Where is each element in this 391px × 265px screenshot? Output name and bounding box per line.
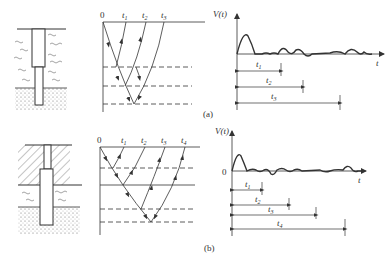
wave-diagram-a [103,22,205,112]
signal-plot-a [237,14,384,110]
time-labels-b: t1 t2 t3 t4 [121,135,187,146]
svg-text:t3: t3 [161,135,167,146]
svg-text:t1: t1 [256,59,262,70]
zero-label-b: 0 [222,167,227,177]
pile-a [14,29,67,110]
x-axis-label-a: t [376,58,379,68]
svg-text:t3: t3 [271,91,277,102]
panel-b: 0 t1 t2 t3 t4 V(t) 0 t t1 t2 t3 [18,126,366,253]
svg-text:t1: t1 [122,10,128,21]
origin-label-a: 0 [100,10,105,20]
panel-a: 0 t1 t2 t3 V(t) t t1 t2 t3 (a) [14,9,384,119]
x-axis-label-b: t [358,175,361,185]
svg-text:t1: t1 [121,135,127,146]
wave-diagram-b [100,147,200,235]
svg-text:t2: t2 [142,10,148,21]
figure-canvas: 0 t1 t2 t3 V(t) t t1 t2 t3 (a) [0,0,391,265]
svg-text:t3: t3 [268,204,274,215]
svg-text:t2: t2 [266,75,272,86]
pile-b [18,145,82,234]
svg-text:t2: t2 [141,135,147,146]
svg-text:t1: t1 [245,179,251,190]
time-labels-a: t1 t2 t3 [122,10,167,21]
y-axis-label-a: V(t) [213,9,227,19]
svg-text:t3: t3 [161,10,167,21]
origin-label-b: 0 [97,135,102,145]
interval-labels-b: t1 t2 t3 t4 [245,179,283,229]
caption-b: (b) [204,243,215,253]
signal-plot-b [232,131,366,236]
caption-a: (a) [203,109,213,119]
y-axis-label-b: V(t) [215,126,229,136]
interval-labels-a: t1 t2 t3 [256,59,277,102]
svg-text:t2: t2 [255,194,261,205]
svg-text:t4: t4 [277,218,283,229]
svg-text:t4: t4 [181,135,187,146]
